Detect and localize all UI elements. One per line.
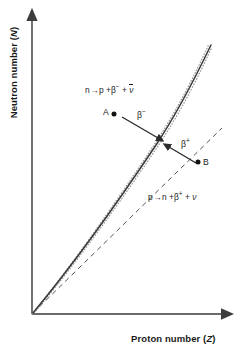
eq-bp-neutrino: ν (192, 192, 196, 202)
y-axis-title-prefix: Neutron number ( (8, 37, 19, 118)
eq-bp-reactant: p (148, 192, 153, 202)
y-axis-title-variable: N (8, 30, 19, 37)
y-axis-title: Neutron number (N) (8, 19, 19, 127)
beta-minus-decay-arrow (122, 117, 158, 138)
beta-plus-decay-arrow (169, 147, 196, 163)
beta-minus-label: β− (137, 110, 146, 120)
plot-canvas (0, 0, 247, 351)
stability-diagram-figure: n→p +β− + ν p→n +β+ + ν A B β− β+ Proton… (0, 0, 247, 351)
eq-bm-arrow: → (90, 85, 99, 95)
x-axis-title-prefix: Proton number ( (131, 333, 206, 344)
eq-bm-product-p: p (99, 85, 104, 95)
eq-bm-reactant: n (85, 85, 90, 95)
eq-bp-beta-charge: + (179, 190, 183, 197)
x-axis-title: Proton number (Z) (131, 333, 216, 344)
point-b-label: B (203, 157, 209, 167)
x-axis-title-suffix: ) (212, 333, 215, 344)
eq-bm-antineutrino: ν (129, 85, 133, 95)
beta-plus-label: β+ (181, 139, 190, 149)
y-axis-title-suffix: ) (8, 27, 19, 30)
beta-plus-charge: + (186, 137, 190, 144)
beta-minus-charge: − (142, 108, 146, 115)
eq-bm-beta-charge: − (116, 83, 120, 90)
eq-bp-arrow: → (153, 192, 162, 202)
data-point-a (112, 112, 117, 117)
eq-bm-plus-2: + (122, 85, 127, 95)
equation-beta-plus-decay: p→n +β+ + ν (148, 192, 196, 202)
eq-bp-plus-2: + (185, 192, 190, 202)
point-a-label: A (103, 107, 109, 117)
n-equals-z-line (33, 128, 222, 313)
equation-beta-minus-decay: n→p +β− + ν (85, 85, 133, 95)
eq-bp-product-n: n (162, 192, 167, 202)
data-point-b (196, 160, 201, 165)
